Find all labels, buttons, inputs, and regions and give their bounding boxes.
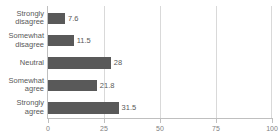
bar-row-neutral: Neutral 28 [0, 52, 279, 74]
category-label-somewhat-agree: Somewhat agree [0, 74, 44, 96]
bar-row-strongly-agree: Strongly agree 31.5 [0, 97, 279, 119]
bar-row-somewhat-disagree: Somewhat disagree 11.5 [0, 29, 279, 51]
x-tick-label-0: 0 [46, 124, 50, 133]
bar-somewhat-disagree [48, 35, 74, 47]
x-tick-75 [216, 119, 217, 123]
bar-value-somewhat-disagree: 11.5 [74, 29, 91, 51]
bar-value-strongly-agree: 31.5 [119, 97, 137, 119]
bar-value-strongly-disagree: 7.6 [65, 7, 78, 29]
x-tick-label-25: 25 [100, 124, 108, 133]
x-tick-25 [104, 119, 105, 123]
bar-strongly-agree [48, 102, 119, 114]
x-tick-label-50: 50 [156, 124, 164, 133]
category-label-somewhat-disagree: Somewhat disagree [0, 29, 44, 51]
x-tick-100 [272, 119, 273, 123]
x-tick-0 [48, 119, 49, 123]
x-tick-label-75: 75 [212, 124, 220, 133]
bar-somewhat-agree [48, 80, 97, 92]
bar-value-neutral: 28 [111, 52, 122, 74]
bar-row-strongly-disagree: Strongly disagree 7.6 [0, 7, 279, 29]
bar-strongly-disagree [48, 13, 65, 25]
category-label-strongly-agree: Strongly agree [0, 97, 44, 119]
category-label-neutral: Neutral [0, 52, 44, 74]
x-tick-label-100: 100 [266, 124, 278, 133]
bar-chart: 0 25 50 75 100 Strongly disagree 7.6 Som… [0, 0, 279, 135]
bar-neutral [48, 57, 111, 69]
category-label-strongly-disagree: Strongly disagree [0, 7, 44, 29]
bar-row-somewhat-agree: Somewhat agree 21.8 [0, 74, 279, 96]
x-tick-50 [160, 119, 161, 123]
bar-value-somewhat-agree: 21.8 [97, 74, 115, 96]
